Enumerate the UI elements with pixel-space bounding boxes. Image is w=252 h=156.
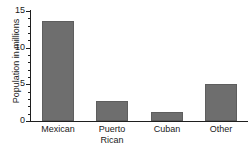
x-tick-label: Mexican bbox=[27, 124, 89, 135]
x-tick-label-line: Rican bbox=[81, 135, 143, 146]
x-axis-line bbox=[30, 121, 248, 122]
x-tick-label-line: Other bbox=[210, 124, 233, 134]
x-axis-tick-labels: MexicanPuertoRicanCubanOther bbox=[31, 124, 248, 154]
y-axis-tick-labels: 051015 bbox=[3, 0, 25, 156]
y-tick-label: 5 bbox=[7, 79, 25, 88]
x-tick-label: Cuban bbox=[136, 124, 198, 135]
bar bbox=[205, 84, 237, 121]
x-tick-label-line: Mexican bbox=[41, 124, 75, 134]
x-tick-label-line: Cuban bbox=[154, 124, 181, 134]
bar-series bbox=[31, 11, 248, 121]
y-tick-label: 0 bbox=[7, 116, 25, 125]
y-tick-label: 15 bbox=[7, 6, 25, 15]
x-tick-label-line: Puerto bbox=[99, 124, 126, 134]
bar-chart: Population in millions 051015 MexicanPue… bbox=[0, 0, 252, 156]
y-tick-major bbox=[26, 121, 31, 122]
bar bbox=[151, 112, 183, 121]
y-tick-label: 10 bbox=[7, 43, 25, 52]
bar bbox=[96, 101, 128, 121]
x-tick-label: Other bbox=[190, 124, 252, 135]
x-tick-label: PuertoRican bbox=[81, 124, 143, 146]
bar bbox=[42, 21, 74, 121]
